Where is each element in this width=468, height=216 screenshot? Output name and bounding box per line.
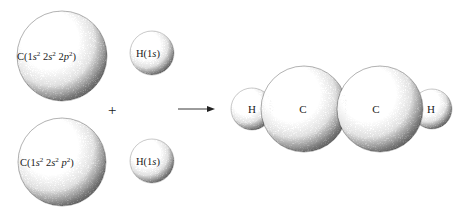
carbon-bottom-config-label: C(1s2 2s2 p2) bbox=[20, 156, 74, 169]
product-c-right-label: C bbox=[372, 103, 379, 115]
product-carbon-right: C bbox=[337, 66, 423, 152]
product-c-left-label: C bbox=[299, 103, 306, 115]
hydrogen-atom-top: H(1s) bbox=[130, 31, 174, 75]
hydrogen-atom-bottom: H(1s) bbox=[130, 139, 174, 183]
reaction-arrow-icon bbox=[178, 106, 215, 112]
product-molecule: H H C C bbox=[231, 66, 452, 152]
product-h-right-label: H bbox=[427, 103, 435, 115]
hydrogen-bottom-config-label: H(1s) bbox=[136, 156, 160, 168]
product-h-left-label: H bbox=[248, 103, 256, 115]
carbon-sphere bbox=[337, 66, 423, 152]
reaction-diagram: C(1s2 2s2 2p2) H(1s) + C(1s2 2s2 p2) H(1… bbox=[0, 0, 468, 216]
carbon-atom-bottom: C(1s2 2s2 p2) bbox=[18, 118, 106, 206]
plus-sign: + bbox=[108, 102, 116, 118]
hydrogen-top-config-label: H(1s) bbox=[136, 48, 160, 60]
carbon-top-config-label: C(1s2 2s2 2p2) bbox=[17, 50, 76, 63]
carbon-atom-top: C(1s2 2s2 2p2) bbox=[17, 11, 107, 101]
product-carbon-left: C bbox=[261, 66, 347, 152]
